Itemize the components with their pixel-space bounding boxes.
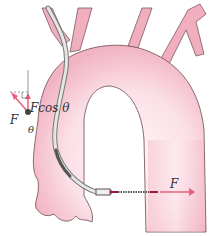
force-component-label: Fcos θ <box>30 102 69 114</box>
output-force-label: F <box>170 178 178 190</box>
angle-label: θ <box>28 124 34 136</box>
aortic-arch-diagram <box>0 0 216 236</box>
force-label: F <box>10 114 18 126</box>
